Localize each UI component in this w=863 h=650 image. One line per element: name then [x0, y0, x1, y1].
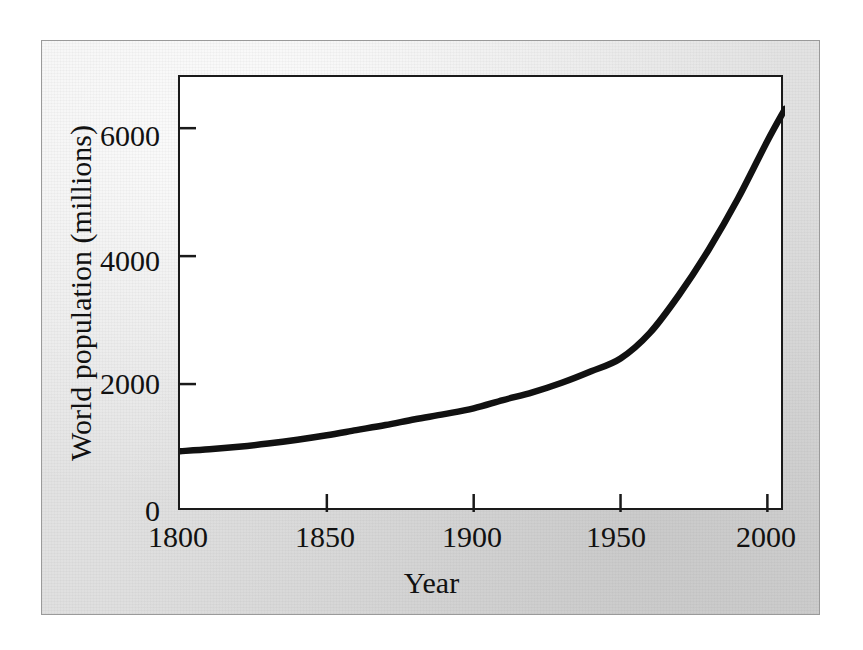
population-curve: [180, 109, 785, 451]
y-tick-label-4000: 4000: [60, 246, 160, 276]
x-tick-label-2000: 2000: [706, 522, 826, 552]
y-tick-label-6000: 6000: [60, 121, 160, 151]
plot-svg: [180, 77, 785, 512]
x-axis-title: Year: [0, 566, 863, 600]
y-tick-marks: [180, 128, 196, 384]
x-tick-label-1950: 1950: [556, 522, 676, 552]
x-tick-label-1900: 1900: [412, 522, 532, 552]
x-tick-label-1800: 1800: [118, 522, 238, 552]
plot-area: [178, 75, 783, 510]
x-tick-marks: [327, 494, 768, 512]
x-tick-label-1850: 1850: [265, 522, 385, 552]
figure-canvas: World population (millions) 6000 4000 20…: [0, 0, 863, 650]
y-tick-label-2000: 2000: [60, 369, 160, 399]
